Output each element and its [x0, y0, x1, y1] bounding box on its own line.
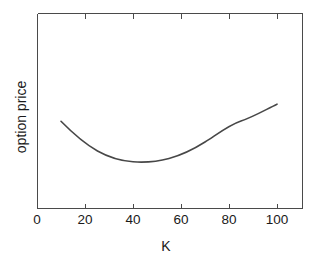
x-tick-label-0: 0 — [33, 212, 41, 227]
chart-svg: 0 20 40 60 80 100 K option price — [0, 0, 314, 265]
x-tick-label-40: 40 — [125, 212, 140, 227]
x-axis-title: K — [161, 238, 171, 254]
y-axis-title: option price — [13, 81, 29, 154]
x-tick-label-20: 20 — [77, 212, 92, 227]
chart-figure: 0 20 40 60 80 100 K option price — [0, 0, 314, 265]
x-tick-label-60: 60 — [173, 212, 188, 227]
x-tick-label-100: 100 — [266, 212, 289, 227]
x-tick-label-80: 80 — [221, 212, 236, 227]
